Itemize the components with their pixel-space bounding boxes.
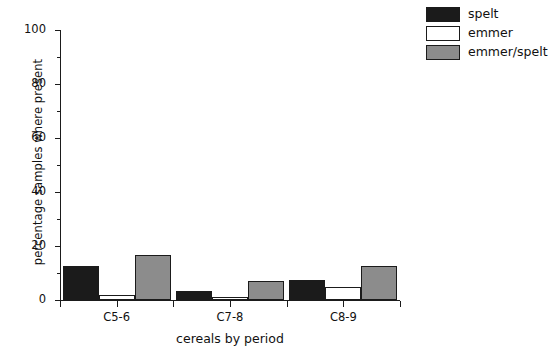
legend-label: spelt <box>468 8 499 21</box>
legend-label: emmer/spelt <box>468 46 548 59</box>
x-tick-label: C7-8 <box>195 310 265 324</box>
legend-swatch <box>426 7 460 22</box>
bar-chart-figure: percentage samples where present 0204060… <box>0 0 559 352</box>
legend-item: emmer <box>426 25 548 42</box>
bar <box>325 287 361 301</box>
x-axis-title: cereals by period <box>60 331 400 346</box>
bar <box>212 297 248 300</box>
x-tick <box>230 301 231 307</box>
bar <box>99 295 135 300</box>
x-tick-boundary <box>173 301 174 307</box>
legend-item: spelt <box>426 6 548 23</box>
bar <box>176 291 212 300</box>
x-tick <box>343 301 344 307</box>
x-tick-label: C5-6 <box>82 310 152 324</box>
bar <box>361 266 397 300</box>
x-tick-boundary <box>400 301 401 307</box>
legend-swatch <box>426 26 460 41</box>
legend-swatch <box>426 45 460 60</box>
x-tick <box>117 301 118 307</box>
bar <box>63 266 99 300</box>
legend-label: emmer <box>468 27 513 40</box>
bar <box>248 281 284 300</box>
x-tick-boundary <box>287 301 288 307</box>
legend-item: emmer/spelt <box>426 44 548 61</box>
chart-legend: speltemmeremmer/spelt <box>426 6 548 63</box>
x-tick-label: C8-9 <box>308 310 378 324</box>
bar <box>135 255 171 300</box>
bar <box>289 280 325 300</box>
x-tick-boundary <box>60 301 61 307</box>
